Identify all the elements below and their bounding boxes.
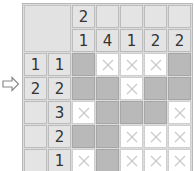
row-clue [24,149,47,171]
grid-cell-filled[interactable] [144,101,167,124]
column-clue: 1 [72,29,95,52]
row-clue [24,101,47,124]
column-clue: 4 [96,29,119,52]
grid-cell-filled[interactable] [72,53,95,76]
cross-icon [149,154,163,168]
right-arrow-icon [2,76,20,92]
column-clue: 2 [168,29,191,52]
column-clue [168,5,191,28]
cross-icon [125,58,139,72]
row-clue: 2 [48,77,71,100]
row-clue: 1 [24,53,47,76]
row-clue: 2 [48,125,71,148]
cross-icon [173,106,187,120]
grid-cell-filled[interactable] [168,53,191,76]
grid-cell-crossed[interactable] [120,77,143,100]
column-clue [96,5,119,28]
cross-icon [101,58,115,72]
grid-cell-crossed[interactable] [120,149,143,171]
grid-cell-crossed[interactable] [144,149,167,171]
grid-cell-crossed[interactable] [120,53,143,76]
grid-cell-filled[interactable] [96,77,119,100]
row-clue: 1 [48,149,71,171]
grid-cell-filled[interactable] [72,125,95,148]
grid-cell-filled[interactable] [120,101,143,124]
column-clue: 2 [72,5,95,28]
grid-cell-filled[interactable] [144,77,167,100]
grid-cell-filled[interactable] [96,125,119,148]
row-clue [24,125,47,148]
cross-icon [125,130,139,144]
grid-cell-crossed[interactable] [168,125,191,148]
cross-icon [125,82,139,96]
grid-cell-crossed[interactable] [144,125,167,148]
cross-icon [173,130,187,144]
corner-blank [24,5,71,52]
grid-cell-crossed[interactable] [120,125,143,148]
grid-cell-crossed[interactable] [72,101,95,124]
cross-icon [149,130,163,144]
grid-cell-crossed[interactable] [168,101,191,124]
grid-cell-crossed[interactable] [96,53,119,76]
grid-cell-crossed[interactable] [72,149,95,171]
column-clue: 1 [120,29,143,52]
row-clue: 1 [48,53,71,76]
cross-icon [77,154,91,168]
cross-icon [125,154,139,168]
cross-icon [149,58,163,72]
column-clue [144,5,167,28]
cross-icon [77,106,91,120]
grid-cell-filled[interactable] [168,77,191,100]
column-clue: 2 [144,29,167,52]
grid-cell-filled[interactable] [96,101,119,124]
grid-cell-filled[interactable] [96,149,119,171]
row-clue: 2 [24,77,47,100]
cross-icon [173,154,187,168]
grid-cell-filled[interactable] [72,77,95,100]
grid-cell-crossed[interactable] [168,149,191,171]
nonogram-board: 2 1 4 1 2 2 1122321 [22,3,193,171]
column-clue [120,5,143,28]
row-clue: 3 [48,101,71,124]
grid-cell-crossed[interactable] [144,53,167,76]
